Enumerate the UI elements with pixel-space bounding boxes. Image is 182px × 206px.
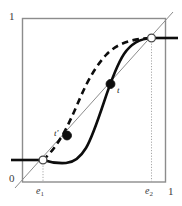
equilibrium-marker-e1 [39,156,47,164]
solid-response-curve [43,38,152,163]
x-axis-tick-e2: e2 [145,186,153,198]
annotation-label-t: t [117,86,120,95]
x-axis-right-label: 1 [168,186,174,197]
figure-container: 1 0 e1 e2 1 t t' [0,0,182,206]
point-marker-t [106,80,115,89]
annotation-label-t-prime: t' [54,129,58,138]
y-axis-top-label: 1 [9,11,15,22]
x-axis-tick-e1: e1 [36,186,44,198]
point-marker-t-prime [63,131,72,140]
equilibrium-marker-e2 [148,34,156,42]
plot-canvas [0,0,182,206]
x-axis-tick-e1-subscript: 1 [40,190,44,198]
x-axis-tick-e2-subscript: 2 [149,190,153,198]
dashed-response-curve [43,38,152,160]
y-axis-bottom-label: 0 [9,173,15,184]
